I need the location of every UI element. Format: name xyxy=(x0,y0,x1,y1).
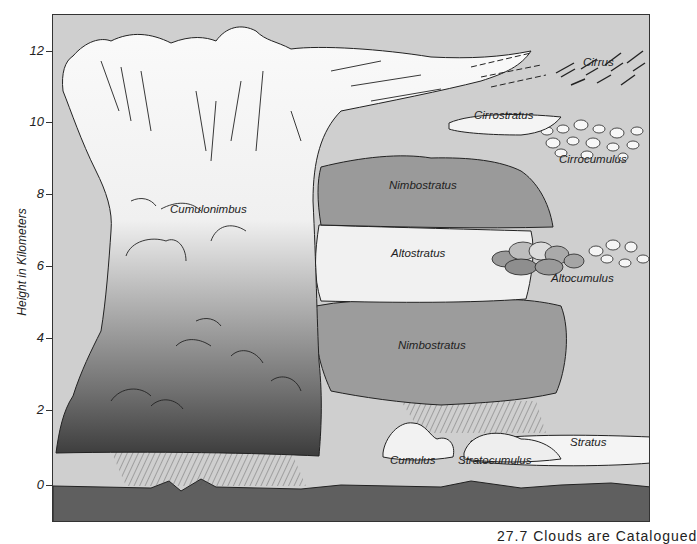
y-tick-8: 8 xyxy=(22,186,44,201)
label-cirrostratus: Cirrostratus xyxy=(474,109,533,121)
label-altostratus: Altostratus xyxy=(391,247,445,259)
cloud-diagram-frame xyxy=(52,14,650,522)
label-nimbostratus-lower: Nimbostratus xyxy=(398,339,466,351)
y-tick-0: 0 xyxy=(22,477,44,492)
y-tick-4: 4 xyxy=(22,330,44,345)
label-cumulus: Cumulus xyxy=(390,454,435,466)
y-tick-6: 6 xyxy=(22,258,44,273)
label-cirrocumulus: Cirrocumulus xyxy=(559,153,627,165)
label-nimbostratus-upper: Nimbostratus xyxy=(389,179,457,191)
y-tick-10: 10 xyxy=(22,114,44,129)
figure-caption: 27.7 Clouds are Catalogued xyxy=(497,528,697,544)
label-stratus: Stratus xyxy=(570,436,606,448)
label-altocumulus: Altocumulus xyxy=(551,272,614,284)
label-stratocumulus: Stratocumulus xyxy=(458,454,532,466)
y-tick-2: 2 xyxy=(22,402,44,417)
label-cirrus: Cirrus xyxy=(583,56,614,68)
y-tick-12: 12 xyxy=(22,43,44,58)
cloud-diagram-illustration xyxy=(53,15,650,522)
label-cumulonimbus: Cumulonimbus xyxy=(170,203,247,215)
